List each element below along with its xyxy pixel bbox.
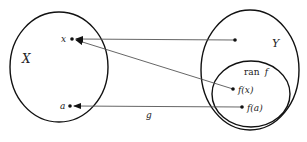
point-a-label: a (60, 101, 65, 111)
range-prefix: ran (244, 67, 260, 77)
point-fx-label: f(x) (237, 85, 254, 95)
function-diagram: X Y ran f g x a f(x) f(a) (0, 0, 307, 142)
point-y-dot (233, 38, 237, 42)
set-x-ellipse (10, 12, 108, 122)
arrow-g-label: g (146, 110, 152, 120)
point-fx-dot (231, 87, 235, 91)
point-a-dot (68, 104, 72, 108)
arrow-fx-to-x (76, 40, 233, 89)
set-y-label: Y (272, 37, 281, 50)
set-x-label: X (21, 52, 31, 66)
range-f-label: ran f (244, 67, 270, 77)
arrow-y-to-x (76, 39, 235, 40)
arrow-fa-to-a (74, 106, 242, 107)
point-fa-dot (240, 105, 244, 109)
range-var: f (264, 67, 270, 77)
point-fa-label: f(a) (246, 103, 263, 113)
point-x-dot (70, 37, 74, 41)
point-x-label: x (61, 34, 66, 44)
